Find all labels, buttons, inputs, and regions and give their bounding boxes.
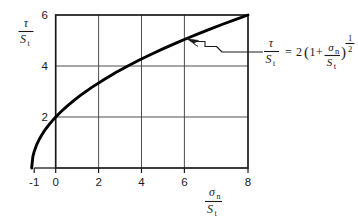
xtick-label-0: 0 <box>52 176 58 188</box>
equation-lhs-numerator: τ <box>269 36 274 50</box>
xtick-label-6: 6 <box>181 176 187 188</box>
x-axis-label-denominator: S <box>207 202 213 216</box>
equation-equals: = <box>285 45 292 59</box>
xtick-label--1: -1 <box>29 176 39 188</box>
ytick-label-6: 6 <box>42 9 48 21</box>
xtick-label-2: 2 <box>95 176 101 188</box>
xtick-label-4: 4 <box>138 176 145 188</box>
equation-frac-numerator: σ <box>328 41 334 53</box>
equation-plus: + <box>316 45 323 59</box>
y-axis-label-numerator: τ <box>24 16 29 30</box>
ytick-label-4: 4 <box>42 60 49 72</box>
equation-exponent-numerator: 1 <box>348 33 352 43</box>
equation-open-paren: ( <box>304 44 309 61</box>
ytick-label-2: 2 <box>42 111 48 123</box>
equation-one: 1 <box>310 45 316 59</box>
chart-figure: -1 0 2 4 6 8 2 4 6 τ S t <box>0 0 358 219</box>
equation-close-paren: ) <box>341 44 346 61</box>
equation-lhs-denominator: S <box>266 52 272 66</box>
y-axis-label-denominator: S <box>20 32 26 46</box>
xtick-label-8: 8 <box>245 176 251 188</box>
equation-frac-denominator: S <box>327 56 333 68</box>
chart-svg: -1 0 2 4 6 8 2 4 6 τ S t <box>0 0 358 219</box>
equation-exponent-denominator: 2 <box>348 44 352 54</box>
equation-coefficient: 2 <box>296 45 302 59</box>
x-axis-label-numerator-subscript: n <box>217 192 221 201</box>
